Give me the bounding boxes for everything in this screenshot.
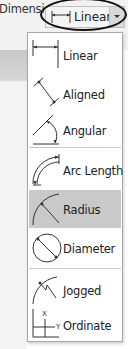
radius-dimension-icon [31, 191, 61, 227]
aligned-dimension-icon [31, 74, 61, 110]
diameter-dimension-icon [31, 231, 63, 265]
linear-dimension-icon [31, 38, 61, 70]
menu-item-label: Angular [63, 124, 106, 138]
menu-item-aligned[interactable]: Aligned [29, 72, 121, 110]
menu-separator [29, 147, 121, 148]
menu-item-label: Aligned [63, 88, 105, 102]
arc-length-dimension-icon [31, 152, 61, 188]
jogged-dimension-icon [31, 274, 61, 306]
svg-text:Y: Y [55, 323, 61, 331]
dropdown-arrow-area[interactable] [109, 7, 124, 27]
menu-item-arc-length[interactable]: Arc Length [29, 149, 121, 189]
dimension-dropdown-menu: Linear Aligned Angular [27, 32, 123, 342]
angular-dimension-icon [31, 111, 61, 147]
ordinate-dimension-icon: X Y [31, 307, 63, 339]
menu-item-angular[interactable]: Angular [29, 110, 121, 147]
menu-item-linear[interactable]: Linear [29, 34, 121, 72]
menu-item-label: Arc Length [63, 164, 123, 178]
menu-item-jogged[interactable]: Jogged [29, 270, 121, 306]
menu-item-label: Diameter [63, 242, 115, 256]
menu-item-ordinate[interactable]: X Y Ordinate [29, 306, 121, 340]
menu-item-label: Ordinate [63, 319, 111, 333]
chevron-down-icon [114, 15, 120, 18]
menu-item-diameter[interactable]: Diameter [29, 228, 121, 267]
ribbon-panel-background [0, 50, 27, 349]
menu-item-label: Jogged [63, 284, 101, 298]
menu-item-label: Radius [63, 203, 100, 217]
menu-item-label: Linear [63, 49, 98, 63]
dimension-dropdown-button[interactable]: Linear [45, 6, 125, 28]
dropdown-selected-label: Linear [74, 10, 111, 24]
svg-text:X: X [42, 310, 47, 318]
menu-separator [29, 268, 121, 269]
menu-item-radius[interactable]: Radius [29, 190, 121, 228]
linear-dimension-icon [50, 10, 72, 24]
